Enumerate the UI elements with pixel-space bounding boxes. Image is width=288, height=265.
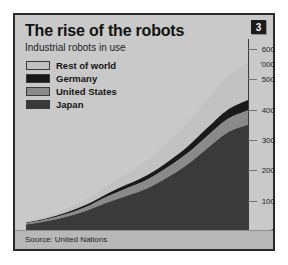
source-note: Source: United Nations (25, 235, 107, 244)
y-tick-label: 300 (262, 136, 275, 145)
y-tick-mark (248, 201, 257, 202)
y-tick-mark (248, 170, 257, 171)
y-axis: 0100200300400500600'000 (248, 39, 277, 237)
y-axis-unit-label: '000 (260, 60, 275, 69)
y-tick-mark (248, 49, 257, 50)
y-tick-label: 500 (262, 75, 275, 84)
y-tick-mark (248, 79, 257, 80)
chart-panel: The rise of the robots Industrial robots… (13, 13, 275, 251)
y-tick-mark (248, 140, 257, 141)
y-tick-label: 400 (262, 105, 275, 114)
source-bar: Source: United Nations (15, 230, 273, 249)
figure-number-badge: 3 (251, 20, 266, 34)
chart-figure: The rise of the robots Industrial robots… (0, 0, 288, 265)
y-tick-mark (248, 110, 257, 111)
stacked-area-svg (26, 49, 248, 231)
y-tick-label: 100 (262, 196, 275, 205)
chart-title: The rise of the robots (25, 22, 184, 40)
y-tick-label: 600 (262, 45, 275, 54)
plot-area (26, 49, 248, 231)
y-tick-label: 200 (262, 166, 275, 175)
